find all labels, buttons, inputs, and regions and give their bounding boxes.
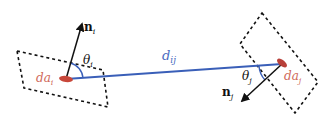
theta-i-arc [71, 63, 84, 78]
theta-j-arc [259, 66, 265, 80]
form-factor-diagram: ni θi dij dai θj daj nj [0, 0, 330, 120]
label-d-ij: dij [162, 48, 176, 65]
label-da-j: daj [284, 69, 302, 85]
diagram-svg: ni θi dij dai θj daj nj [0, 0, 330, 120]
label-theta-j: θj [242, 69, 252, 85]
label-n-j: nj [222, 85, 234, 101]
label-da-i: dai [36, 71, 54, 87]
patch-i-marker [59, 75, 74, 83]
label-n-i: ni [84, 20, 96, 36]
label-theta-i: θi [83, 53, 93, 69]
normal-i-arrow [66, 24, 82, 79]
